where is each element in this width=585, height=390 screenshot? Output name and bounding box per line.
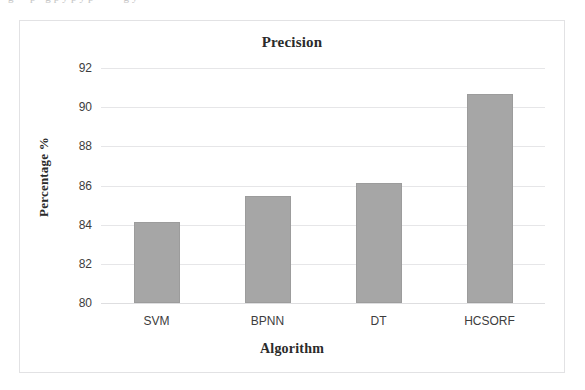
y-tick-label: 90 bbox=[79, 100, 92, 114]
x-tick-label-bpnn: BPNN bbox=[251, 314, 284, 328]
bar-hcsorf bbox=[467, 94, 513, 303]
y-tick-label: 92 bbox=[79, 61, 92, 75]
y-tick-label: 88 bbox=[79, 139, 92, 153]
x-tick-label-dt: DT bbox=[371, 314, 387, 328]
cut-off-caption-above: g · · p · g p y p y p · · · · g y bbox=[8, 0, 568, 3]
y-tick-label: 86 bbox=[79, 179, 92, 193]
gridline bbox=[101, 303, 545, 304]
bar-svm bbox=[134, 222, 180, 303]
y-tick-label: 84 bbox=[79, 218, 92, 232]
x-tick-label-svm: SVM bbox=[143, 314, 169, 328]
x-axis-title: Algorithm bbox=[20, 341, 564, 357]
chart-figure-frame: Precision Percentage % 80828486889092 SV… bbox=[19, 20, 565, 373]
bar-series-precision bbox=[101, 68, 545, 303]
y-tick-label: 82 bbox=[79, 257, 92, 271]
plot-area: 80828486889092 SVMBPNNDTHCSORF bbox=[101, 68, 545, 303]
bar-bpnn bbox=[245, 196, 291, 303]
y-tick-label: 80 bbox=[79, 296, 92, 310]
chart-title: Precision bbox=[20, 34, 564, 51]
y-axis-title: Percentage % bbox=[36, 117, 52, 237]
x-tick-label-hcsorf: HCSORF bbox=[464, 314, 515, 328]
bar-dt bbox=[356, 183, 402, 303]
